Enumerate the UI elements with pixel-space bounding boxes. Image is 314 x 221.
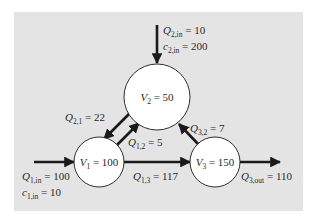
reactor-network-diagram: V2 = 50 V1 = 100 V3 = 150 Q2,in = 10 c2,… [0,0,314,221]
